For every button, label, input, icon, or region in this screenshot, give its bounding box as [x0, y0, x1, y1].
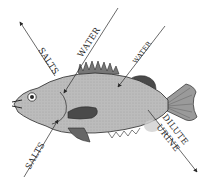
label-salts-in: SALTS — [23, 140, 47, 171]
label-water-body: WATER — [131, 39, 153, 65]
fish-osmoregulation-diagram: SALTS WATER WATER SALTS DILUTE URINE — [0, 0, 205, 183]
label-salts-out: SALTS — [36, 46, 61, 77]
